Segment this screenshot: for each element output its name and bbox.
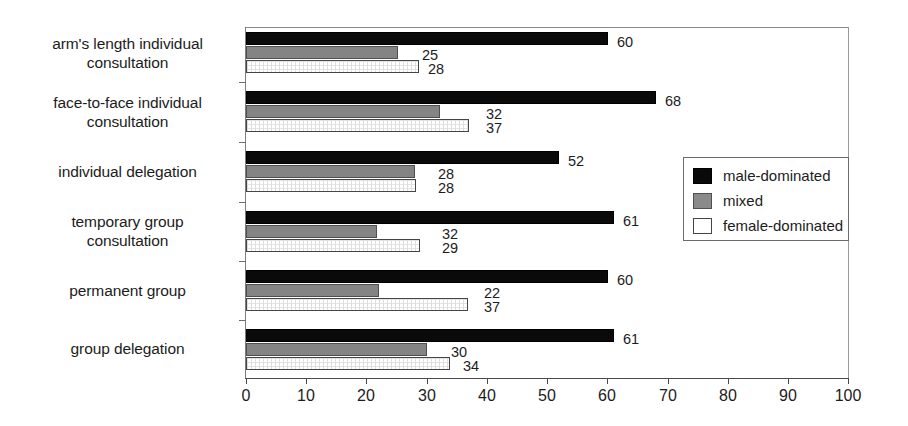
- bar-value-mixed-2: 28: [438, 167, 454, 181]
- x-axis-tick-70: [668, 378, 669, 384]
- y-axis-tick: [239, 142, 246, 143]
- category-label-4: permanent group: [20, 281, 235, 300]
- x-axis-label-100: 100: [835, 386, 862, 405]
- y-axis-line: [245, 27, 246, 379]
- x-axis-tick-40: [487, 378, 488, 384]
- x-axis-label-0: 0: [242, 386, 251, 405]
- x-axis-tick-100: [848, 378, 849, 384]
- x-axis-label-60: 60: [598, 386, 616, 405]
- category-label-2: individual delegation: [20, 162, 235, 181]
- bar-female-2: [246, 179, 416, 192]
- x-axis-label-20: 20: [357, 386, 375, 405]
- legend-item-female-dominated: female-dominated: [693, 216, 843, 235]
- category-label-3: temporary group consultation: [20, 212, 235, 250]
- bar-value-male-2: 52: [568, 154, 584, 168]
- x-axis-tick-10: [306, 378, 307, 384]
- category-label-5: group delegation: [20, 339, 235, 358]
- bar-value-female-2: 28: [438, 181, 454, 195]
- x-axis-label-40: 40: [478, 386, 496, 405]
- bar-value-female-1: 37: [486, 121, 502, 135]
- bar-value-female-5: 34: [463, 359, 479, 373]
- bar-value-mixed-5: 30: [451, 345, 467, 359]
- bar-value-mixed-3: 32: [442, 227, 458, 241]
- category-label-1: face-to-face individual consultation: [20, 93, 235, 131]
- x-axis-tick-80: [728, 378, 729, 384]
- black-swatch-icon: [693, 168, 712, 184]
- chart-legend: male-dominated mixed female-dominated: [683, 157, 849, 241]
- bar-mixed-4: [246, 284, 379, 297]
- white-swatch-icon: [693, 218, 712, 234]
- gray-swatch-icon: [693, 193, 712, 209]
- category-label-3-line1: temporary group: [20, 212, 235, 231]
- bar-male-5: [246, 329, 614, 342]
- bar-chart: arm's length individual consultation fac…: [0, 0, 908, 426]
- category-label-1-line2: consultation: [20, 112, 235, 131]
- bar-female-5: [246, 357, 450, 370]
- bar-value-female-3: 29: [442, 241, 458, 255]
- bar-value-male-0: 60: [617, 35, 633, 49]
- legend-item-mixed: mixed: [693, 191, 763, 210]
- x-axis-tick-0: [246, 378, 247, 384]
- x-axis-tick-30: [427, 378, 428, 384]
- bar-mixed-2: [246, 165, 415, 178]
- bar-male-4: [246, 270, 608, 283]
- x-axis-tick-90: [788, 378, 789, 384]
- x-axis-label-80: 80: [719, 386, 737, 405]
- bar-mixed-5: [246, 343, 427, 356]
- bar-value-mixed-4: 22: [484, 286, 500, 300]
- bar-male-1: [246, 91, 656, 104]
- x-axis-label-10: 10: [297, 386, 315, 405]
- x-axis-tick-60: [607, 378, 608, 384]
- category-label-2-line1: individual delegation: [20, 162, 235, 181]
- legend-label-female-dominated: female-dominated: [723, 218, 843, 234]
- bar-value-female-0: 28: [428, 62, 444, 76]
- bar-mixed-3: [246, 225, 377, 238]
- bar-value-male-4: 60: [617, 273, 633, 287]
- category-label-0-line2: consultation: [20, 53, 235, 72]
- x-axis-label-30: 30: [418, 386, 436, 405]
- bar-value-mixed-0: 25: [422, 48, 438, 62]
- bar-mixed-1: [246, 105, 440, 118]
- category-label-3-line2: consultation: [20, 231, 235, 250]
- category-label-1-line1: face-to-face individual: [20, 93, 235, 112]
- bar-value-male-1: 68: [665, 94, 681, 108]
- category-label-0: arm's length individual consultation: [20, 34, 235, 72]
- legend-label-male-dominated: male-dominated: [723, 168, 831, 184]
- bar-value-mixed-1: 32: [486, 107, 502, 121]
- bar-male-0: [246, 32, 608, 45]
- bar-female-4: [246, 298, 468, 311]
- x-axis-label-50: 50: [538, 386, 556, 405]
- category-label-0-line1: arm's length individual: [20, 34, 235, 53]
- y-axis-tick: [239, 202, 246, 203]
- bar-male-2: [246, 151, 559, 164]
- y-axis-tick: [239, 320, 246, 321]
- category-label-4-line1: permanent group: [20, 281, 235, 300]
- bar-mixed-0: [246, 46, 398, 59]
- y-axis-tick: [239, 82, 246, 83]
- y-axis-tick: [239, 261, 246, 262]
- bar-male-3: [246, 211, 614, 224]
- category-axis-labels: arm's length individual consultation fac…: [20, 0, 235, 426]
- bar-female-1: [246, 119, 469, 132]
- x-axis-tick-50: [547, 378, 548, 384]
- legend-label-mixed: mixed: [723, 193, 763, 209]
- category-label-5-line1: group delegation: [20, 339, 235, 358]
- bar-value-female-4: 37: [484, 300, 500, 314]
- bar-value-male-3: 61: [623, 214, 639, 228]
- bar-value-male-5: 61: [623, 332, 639, 346]
- x-axis-tick-20: [366, 378, 367, 384]
- x-axis-label-90: 90: [779, 386, 797, 405]
- x-axis-label-70: 70: [659, 386, 677, 405]
- bar-female-0: [246, 60, 419, 73]
- legend-item-male-dominated: male-dominated: [693, 166, 831, 185]
- bar-female-3: [246, 239, 420, 252]
